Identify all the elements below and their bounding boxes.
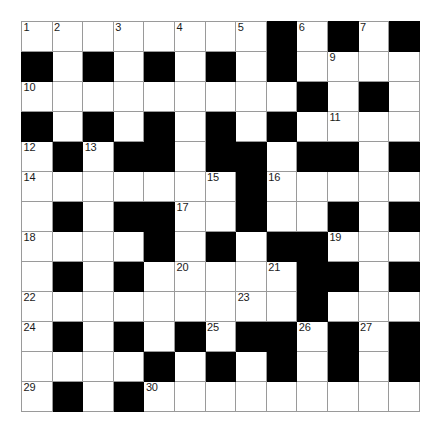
letter-cell[interactable]	[389, 292, 420, 322]
letter-cell[interactable]: 6	[297, 22, 328, 52]
letter-cell[interactable]	[236, 262, 267, 292]
letter-cell[interactable]	[144, 22, 175, 52]
letter-cell[interactable]: 27	[358, 322, 389, 352]
letter-cell[interactable]	[52, 172, 83, 202]
letter-cell[interactable]	[174, 352, 205, 382]
letter-cell[interactable]	[327, 292, 358, 322]
letter-cell[interactable]	[174, 112, 205, 142]
letter-cell[interactable]	[389, 52, 420, 82]
letter-cell[interactable]	[236, 82, 267, 112]
letter-cell[interactable]	[327, 172, 358, 202]
letter-cell[interactable]: 26	[297, 322, 328, 352]
letter-cell[interactable]	[144, 322, 175, 352]
letter-cell[interactable]: 24	[22, 322, 53, 352]
letter-cell[interactable]	[358, 202, 389, 232]
letter-cell[interactable]: 4	[174, 22, 205, 52]
letter-cell[interactable]: 18	[22, 232, 53, 262]
letter-cell[interactable]	[83, 232, 114, 262]
letter-cell[interactable]	[52, 352, 83, 382]
letter-cell[interactable]: 29	[22, 382, 53, 412]
letter-cell[interactable]: 25	[205, 322, 236, 352]
letter-cell[interactable]	[358, 352, 389, 382]
letter-cell[interactable]	[52, 292, 83, 322]
letter-cell[interactable]	[113, 232, 144, 262]
letter-cell[interactable]	[297, 52, 328, 82]
letter-cell[interactable]	[236, 352, 267, 382]
letter-cell[interactable]	[205, 202, 236, 232]
letter-cell[interactable]	[358, 142, 389, 172]
letter-cell[interactable]	[358, 112, 389, 142]
letter-cell[interactable]	[174, 52, 205, 82]
letter-cell[interactable]	[205, 382, 236, 412]
letter-cell[interactable]	[297, 382, 328, 412]
letter-cell[interactable]	[83, 322, 114, 352]
letter-cell[interactable]: 10	[22, 82, 53, 112]
letter-cell[interactable]	[389, 172, 420, 202]
letter-cell[interactable]	[52, 82, 83, 112]
letter-cell[interactable]	[358, 382, 389, 412]
letter-cell[interactable]: 19	[327, 232, 358, 262]
letter-cell[interactable]	[358, 172, 389, 202]
letter-cell[interactable]	[297, 352, 328, 382]
letter-cell[interactable]	[83, 292, 114, 322]
letter-cell[interactable]: 3	[113, 22, 144, 52]
letter-cell[interactable]	[113, 172, 144, 202]
letter-cell[interactable]	[389, 112, 420, 142]
letter-cell[interactable]: 15	[205, 172, 236, 202]
letter-cell[interactable]: 16	[266, 172, 297, 202]
letter-cell[interactable]	[144, 82, 175, 112]
letter-cell[interactable]	[358, 262, 389, 292]
letter-cell[interactable]	[22, 202, 53, 232]
letter-cell[interactable]	[297, 172, 328, 202]
letter-cell[interactable]	[52, 232, 83, 262]
letter-cell[interactable]	[83, 22, 114, 52]
letter-cell[interactable]	[266, 142, 297, 172]
letter-cell[interactable]	[389, 82, 420, 112]
letter-cell[interactable]: 7	[358, 22, 389, 52]
letter-cell[interactable]	[266, 292, 297, 322]
letter-cell[interactable]	[266, 382, 297, 412]
letter-cell[interactable]	[144, 292, 175, 322]
letter-cell[interactable]	[297, 112, 328, 142]
letter-cell[interactable]	[83, 262, 114, 292]
letter-cell[interactable]	[22, 262, 53, 292]
letter-cell[interactable]	[327, 82, 358, 112]
letter-cell[interactable]: 21	[266, 262, 297, 292]
letter-cell[interactable]	[174, 382, 205, 412]
letter-cell[interactable]	[144, 172, 175, 202]
letter-cell[interactable]	[113, 352, 144, 382]
letter-cell[interactable]	[205, 82, 236, 112]
letter-cell[interactable]: 11	[327, 112, 358, 142]
letter-cell[interactable]	[113, 112, 144, 142]
letter-cell[interactable]: 1	[22, 22, 53, 52]
letter-cell[interactable]	[266, 82, 297, 112]
letter-cell[interactable]: 5	[236, 22, 267, 52]
letter-cell[interactable]	[83, 382, 114, 412]
letter-cell[interactable]: 14	[22, 172, 53, 202]
letter-cell[interactable]: 20	[174, 262, 205, 292]
letter-cell[interactable]: 23	[236, 292, 267, 322]
letter-cell[interactable]: 2	[52, 22, 83, 52]
letter-cell[interactable]	[83, 352, 114, 382]
letter-cell[interactable]	[297, 202, 328, 232]
letter-cell[interactable]	[83, 82, 114, 112]
letter-cell[interactable]	[389, 232, 420, 262]
letter-cell[interactable]	[174, 142, 205, 172]
letter-cell[interactable]	[83, 202, 114, 232]
letter-cell[interactable]	[205, 22, 236, 52]
letter-cell[interactable]	[236, 382, 267, 412]
letter-cell[interactable]: 13	[83, 142, 114, 172]
letter-cell[interactable]	[22, 352, 53, 382]
letter-cell[interactable]	[205, 292, 236, 322]
letter-cell[interactable]	[358, 292, 389, 322]
letter-cell[interactable]	[236, 112, 267, 142]
letter-cell[interactable]	[174, 292, 205, 322]
letter-cell[interactable]	[358, 52, 389, 82]
letter-cell[interactable]	[113, 292, 144, 322]
letter-cell[interactable]	[327, 382, 358, 412]
letter-cell[interactable]	[174, 232, 205, 262]
letter-cell[interactable]: 22	[22, 292, 53, 322]
letter-cell[interactable]	[174, 172, 205, 202]
letter-cell[interactable]	[113, 52, 144, 82]
letter-cell[interactable]	[174, 82, 205, 112]
